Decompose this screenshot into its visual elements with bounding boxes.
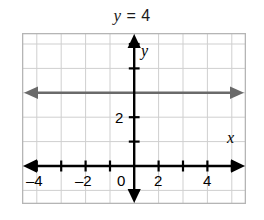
- x-tick-label-zero: 0: [117, 173, 125, 188]
- coordinate-plane: y x –4 –2 0 2 4 2: [22, 33, 246, 204]
- graph-title: y = 4: [0, 6, 264, 26]
- y-tick-label-2: 2: [115, 110, 123, 125]
- graph-figure: y = 4: [0, 0, 264, 220]
- x-tick-label-neg4: –4: [26, 173, 43, 188]
- coordinate-plane-svg: [22, 33, 246, 204]
- x-tick-label-4: 4: [203, 173, 211, 188]
- title-operator: =: [126, 7, 136, 24]
- x-tick-label-neg2: –2: [75, 173, 92, 188]
- x-tick-label-2: 2: [154, 173, 162, 188]
- x-axis-label: x: [227, 130, 234, 146]
- y-axis-label: y: [141, 43, 148, 59]
- title-value: 4: [141, 7, 150, 24]
